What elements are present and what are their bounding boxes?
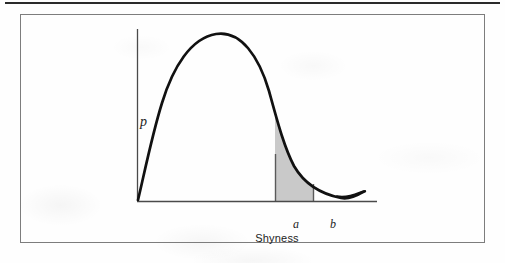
- tick-label-b: b: [330, 218, 336, 230]
- distribution-plot: [21, 15, 486, 244]
- figure-frame: p a b Shyness: [20, 14, 485, 243]
- figure-page: p a b Shyness: [0, 0, 505, 263]
- y-axis-label: p: [140, 115, 147, 129]
- shaded-area-a-to-b: [275, 25, 313, 201]
- density-curve: [138, 34, 364, 200]
- tick-label-a: a: [293, 218, 299, 230]
- x-axis-title: Shyness: [157, 233, 397, 244]
- top-horizontal-rule: [5, 2, 500, 4]
